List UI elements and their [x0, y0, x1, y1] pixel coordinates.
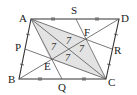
label-C: C	[108, 76, 115, 88]
label-D: D	[121, 12, 129, 24]
label-B: B	[8, 73, 15, 85]
geometry-figure: A D B C S P Q R E F 7 7 7 7	[0, 0, 137, 95]
label-R: R	[114, 44, 122, 56]
label-S: S	[71, 4, 77, 16]
label-F: F	[84, 26, 90, 38]
label-Q: Q	[58, 81, 66, 93]
label-P: P	[15, 41, 21, 53]
label-E: E	[44, 60, 51, 72]
label-A: A	[19, 12, 27, 24]
diagonal-BD	[19, 19, 119, 79]
